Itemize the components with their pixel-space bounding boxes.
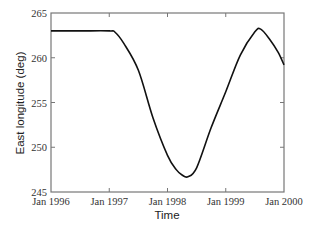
- y-axis-tick-labels: 245250255260265: [31, 8, 47, 198]
- x-tick-label: Jan 1999: [207, 196, 245, 207]
- x-tick-label: Jan 1998: [149, 196, 187, 207]
- x-tick-label: Jan 2000: [265, 196, 303, 207]
- y-tick-label: 265: [31, 8, 47, 19]
- y-tick-label: 260: [31, 53, 47, 64]
- x-tick-label: Jan 1997: [90, 196, 128, 207]
- line-chart: Jan 1996Jan 1997Jan 1998Jan 1999Jan 2000…: [0, 0, 317, 227]
- x-axis-label: Time: [154, 209, 179, 221]
- y-tick-label: 245: [31, 187, 47, 198]
- longitude-series-line: [51, 28, 284, 177]
- y-tick-label: 250: [31, 142, 47, 153]
- x-axis-tick-labels: Jan 1996Jan 1997Jan 1998Jan 1999Jan 2000: [32, 196, 303, 207]
- y-tick-label: 255: [31, 98, 47, 109]
- y-axis-label: East longitude (deg): [14, 51, 26, 154]
